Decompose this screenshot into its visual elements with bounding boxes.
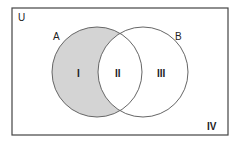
set-b-label: B — [175, 31, 182, 42]
universe-label: U — [18, 12, 25, 23]
region-ii-label: II — [115, 68, 121, 79]
region-iii-label: III — [157, 68, 166, 79]
region-iv-label: IV — [207, 121, 217, 132]
venn-diagram: U A B I II III IV — [0, 0, 236, 142]
region-i-label: I — [77, 68, 80, 79]
set-a-label: A — [53, 31, 60, 42]
